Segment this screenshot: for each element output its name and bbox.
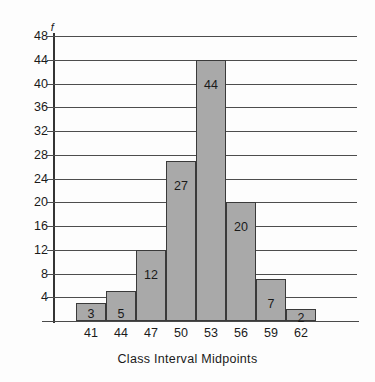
bar-value-label: 7 [257, 298, 285, 311]
histogram-bar: 5 [106, 291, 136, 321]
x-axis-tick-label: 47 [136, 326, 166, 340]
y-axis-tick-label: 4 [22, 291, 48, 304]
x-axis-tick-label: 56 [226, 326, 256, 340]
gridline [53, 36, 357, 37]
y-axis-tick-label: 16 [22, 220, 48, 233]
plot-area: 351227442072 [53, 36, 357, 321]
y-axis-tick-label: 48 [22, 30, 48, 43]
bar-value-label: 2 [287, 312, 315, 325]
x-axis-tick-label: 62 [286, 326, 316, 340]
bar-value-label: 12 [137, 269, 165, 282]
y-axis-tick-label: 44 [22, 54, 48, 67]
x-axis-tick-label: 53 [196, 326, 226, 340]
x-axis-tick-label: 41 [76, 326, 106, 340]
bar-value-label: 5 [107, 308, 135, 321]
x-axis-title: Class Interval Midpoints [0, 352, 375, 366]
histogram-bar: 2 [286, 309, 316, 321]
x-axis-tick-label: 44 [106, 326, 136, 340]
y-axis-tick-label: 24 [22, 173, 48, 186]
histogram-bar: 12 [136, 250, 166, 321]
bar-value-label: 27 [167, 180, 195, 193]
histogram-bar: 44 [196, 60, 226, 321]
bar-value-label: 3 [77, 308, 105, 321]
y-axis-tick-label: 36 [22, 101, 48, 114]
histogram-bar: 3 [76, 303, 106, 321]
bar-value-label: 20 [227, 221, 255, 234]
x-axis-tick-label: 50 [166, 326, 196, 340]
histogram-bar: 7 [256, 279, 286, 321]
y-axis-tick-label: 28 [22, 149, 48, 162]
y-axis-tick-label: 40 [22, 78, 48, 91]
bar-value-label: 44 [197, 79, 225, 92]
y-axis-tick-label: 8 [22, 268, 48, 281]
x-axis-tick-label: 59 [256, 326, 286, 340]
histogram-bar: 27 [166, 161, 196, 321]
histogram-chart: f 351227442072 4812162024283236404448 41… [0, 0, 375, 382]
y-axis-tick-label: 12 [22, 244, 48, 257]
y-axis-tick-label: 20 [22, 196, 48, 209]
y-axis-tick-label: 32 [22, 125, 48, 138]
histogram-bar: 20 [226, 202, 256, 321]
